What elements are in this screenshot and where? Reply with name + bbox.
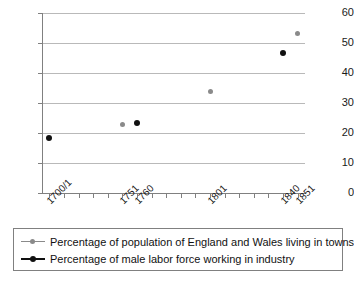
y-tick-label: 0 [320,187,354,198]
gridline [42,13,305,14]
legend-marker-towns-icon [20,236,46,247]
x-tick-mark [239,193,240,198]
legend-item-towns[interactable]: Percentage of population of England and … [20,233,336,250]
gridline [42,163,305,164]
x-tick-mark [254,193,255,198]
y-tick-label: 30 [320,97,354,108]
data-point [208,89,213,94]
data-point [295,31,300,36]
y-tick-label: 10 [320,157,354,168]
y-tick-mark [38,103,43,104]
gridline [42,73,305,74]
plot-area [42,13,305,193]
y-tick-label: 50 [320,37,354,48]
y-tick-mark [38,73,43,74]
y-tick-mark [38,43,43,44]
y-tick-mark [38,133,43,134]
gridline [42,103,305,104]
legend-item-industry[interactable]: Percentage of male labor force working i… [20,250,336,267]
y-tick-mark [38,193,43,194]
chart-legend: Percentage of population of England and … [13,228,343,271]
data-point [46,135,52,141]
y-tick-label: 40 [320,67,354,78]
data-point [120,122,125,127]
y-tick-label: 60 [320,7,354,18]
x-tick-mark [166,193,167,198]
chart-container: 0102030405060 1700/117511760180118401851… [0,0,354,283]
data-point [280,50,286,56]
x-tick-mark [79,193,80,198]
legend-label-towns: Percentage of population of England and … [50,236,354,248]
gridline [42,133,305,134]
x-tick-mark [268,193,269,198]
y-tick-label: 20 [320,127,354,138]
legend-marker-industry-icon [20,253,46,264]
data-point [134,120,140,126]
y-tick-mark [38,163,43,164]
gridline [42,43,305,44]
x-tick-mark [93,193,94,198]
x-axis-line [42,193,306,194]
y-tick-mark [38,13,43,14]
legend-label-industry: Percentage of male labor force working i… [50,253,295,265]
x-tick-mark [181,193,182,198]
x-tick-mark [195,193,196,198]
x-tick-mark [108,193,109,198]
